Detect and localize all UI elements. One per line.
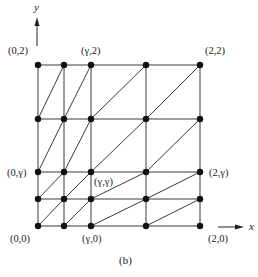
mesh-diagram: y x (0,2) (γ,2) (2,2) (0,γ) (γ,γ) (2,γ) … <box>0 0 258 277</box>
x-axis-arrow-icon <box>218 225 244 230</box>
mesh-node <box>88 62 94 68</box>
mesh-node <box>143 196 149 202</box>
cell-diagonal-line <box>91 199 146 226</box>
label-2-gamma: (2,γ) <box>209 167 229 179</box>
cell-diagonal-line <box>38 119 64 172</box>
mesh-node <box>35 62 41 68</box>
cell-diagonal-line <box>146 119 200 172</box>
label-gamma-0: (γ,0) <box>82 233 102 245</box>
label-0-gamma: (0,γ) <box>7 167 27 179</box>
mesh-node <box>197 196 203 202</box>
mesh-lines <box>38 65 200 226</box>
mesh-node <box>35 223 41 229</box>
figure-caption: (b) <box>119 254 132 267</box>
cell-diagonal-line <box>91 119 146 172</box>
label-2-2: (2,2) <box>205 45 226 57</box>
mesh-node <box>35 196 41 202</box>
label-0-2: (0,2) <box>8 45 29 57</box>
mesh-node <box>61 223 67 229</box>
label-2-0-text: (2,0) <box>208 233 229 245</box>
x-axis-label: x <box>248 220 254 232</box>
mesh-node <box>143 116 149 122</box>
mesh-node <box>61 62 67 68</box>
cell-diagonal-line <box>64 199 91 226</box>
mesh-node <box>143 62 149 68</box>
label-0-0: (0,0) <box>10 233 31 245</box>
cell-diagonal-line <box>146 65 200 119</box>
cell-diagonal-line <box>38 199 64 226</box>
mesh-node <box>88 196 94 202</box>
mesh-node <box>88 223 94 229</box>
cell-diagonal-line <box>64 119 91 172</box>
mesh-node <box>61 116 67 122</box>
y-axis-arrow-icon <box>35 17 40 46</box>
cell-diagonal-line <box>38 172 64 199</box>
mesh-node <box>35 169 41 175</box>
mesh-node <box>61 169 67 175</box>
cell-diagonal-line <box>146 199 200 226</box>
mesh-node <box>88 116 94 122</box>
mesh-figure: y x (0,2) (γ,2) (2,2) (0,γ) (γ,γ) (2,γ) … <box>0 0 258 277</box>
mesh-node <box>197 169 203 175</box>
mesh-node <box>35 116 41 122</box>
cell-diagonal-line <box>64 65 91 119</box>
cell-diagonal-line <box>64 172 91 199</box>
mesh-node <box>88 169 94 175</box>
mesh-node <box>197 116 203 122</box>
label-gamma-2: (γ,2) <box>81 45 101 57</box>
cell-diagonal-line <box>91 65 146 119</box>
y-axis-label: y <box>33 1 39 13</box>
cell-diagonal-line <box>38 65 64 119</box>
mesh-node <box>61 196 67 202</box>
label-gamma-gamma: (γ,γ) <box>94 176 113 188</box>
mesh-node <box>143 169 149 175</box>
mesh-node <box>197 223 203 229</box>
cell-diagonal-line <box>146 172 200 199</box>
mesh-node <box>143 223 149 229</box>
mesh-node <box>197 62 203 68</box>
